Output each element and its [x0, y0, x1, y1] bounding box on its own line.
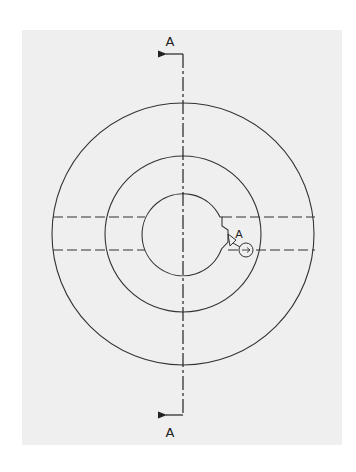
datum-leader: [233, 243, 240, 247]
inner-bore-with-keyway: [142, 194, 228, 276]
technical-drawing: [0, 0, 356, 472]
datum-feature-label: A: [235, 229, 243, 240]
section-label-bottom: A: [166, 426, 175, 439]
section-label-top: A: [166, 35, 175, 48]
